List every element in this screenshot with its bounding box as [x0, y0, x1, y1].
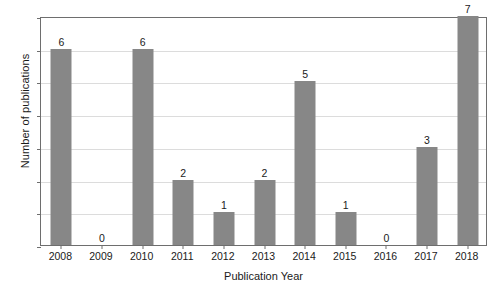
- bar[interactable]: [295, 81, 316, 245]
- bar-value-label: 6: [123, 36, 163, 48]
- bar[interactable]: [51, 49, 72, 245]
- y-tick-mark: [37, 214, 41, 215]
- y-tick-mark: [37, 83, 41, 84]
- gridline: [41, 51, 486, 52]
- x-tick-mark: [386, 245, 387, 249]
- x-tick-label: 2016: [362, 250, 408, 262]
- bar-value-label: 5: [285, 68, 325, 80]
- x-tick-label: 2015: [322, 250, 368, 262]
- bar[interactable]: [213, 212, 234, 245]
- bar-value-label: 2: [163, 167, 203, 179]
- bar[interactable]: [457, 16, 478, 245]
- y-tick-mark: [37, 116, 41, 117]
- plot-area: 01234567 60621251037: [40, 17, 487, 246]
- x-tick-mark: [61, 245, 62, 249]
- x-tick-mark: [427, 245, 428, 249]
- x-tick-label: 2010: [119, 250, 165, 262]
- bar-value-label: 6: [41, 36, 81, 48]
- bar-value-label: 0: [82, 232, 122, 244]
- y-tick-mark: [37, 51, 41, 52]
- bar[interactable]: [254, 180, 275, 245]
- x-tick-label: 2013: [241, 250, 287, 262]
- x-tick-label: 2008: [37, 250, 83, 262]
- x-tick-mark: [101, 245, 102, 249]
- gridline: [41, 116, 486, 117]
- x-tick-mark: [223, 245, 224, 249]
- gridline: [41, 83, 486, 84]
- x-tick-label: 2018: [444, 250, 490, 262]
- bar-value-label: 7: [448, 3, 488, 15]
- x-tick-mark: [264, 245, 265, 249]
- x-tick-label: 2009: [78, 250, 124, 262]
- x-tick-mark: [142, 245, 143, 249]
- bar-value-label: 2: [245, 167, 285, 179]
- x-tick-mark: [305, 245, 306, 249]
- bar[interactable]: [335, 212, 356, 245]
- y-axis-title: Number of publications: [19, 11, 31, 211]
- x-tick-mark: [467, 245, 468, 249]
- bar[interactable]: [417, 147, 438, 245]
- x-tick-label: 2014: [281, 250, 327, 262]
- bar[interactable]: [173, 180, 194, 245]
- bar[interactable]: [132, 49, 153, 245]
- x-tick-mark: [345, 245, 346, 249]
- x-tick-mark: [183, 245, 184, 249]
- bar-value-label: 1: [326, 199, 366, 211]
- bar-value-label: 1: [204, 199, 244, 211]
- x-axis-title: Publication Year: [40, 270, 487, 282]
- bar-value-label: 0: [366, 232, 406, 244]
- bar-value-label: 3: [407, 134, 447, 146]
- x-tick-label: 2017: [403, 250, 449, 262]
- y-tick-mark: [37, 149, 41, 150]
- x-tick-label: 2012: [200, 250, 246, 262]
- bar-chart: Number of publications 01234567 60621251…: [0, 0, 500, 291]
- y-tick-mark: [37, 182, 41, 183]
- y-tick-mark: [37, 18, 41, 19]
- x-tick-label: 2011: [159, 250, 205, 262]
- y-tick-mark: [37, 247, 41, 248]
